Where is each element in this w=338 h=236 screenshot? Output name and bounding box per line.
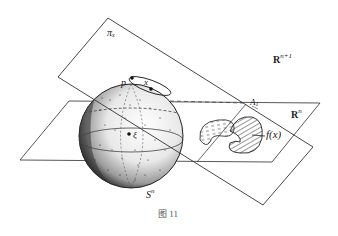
label-r-n: Rn bbox=[291, 110, 302, 120]
label-rn1-sup: n+1 bbox=[280, 52, 292, 60]
label-xi: ξ bbox=[133, 131, 137, 140]
label-x: x bbox=[144, 78, 148, 87]
label-p: p bbox=[121, 78, 126, 88]
label-rn-sup: n bbox=[298, 107, 302, 115]
label-sn: Sn bbox=[146, 190, 155, 200]
figure-caption: 图 11 bbox=[158, 210, 178, 219]
point-x bbox=[149, 87, 153, 91]
label-a-sub: 1 bbox=[256, 101, 259, 107]
label-s-sup: n bbox=[151, 187, 155, 195]
label-pi-x: πx bbox=[107, 28, 115, 38]
point-p bbox=[130, 76, 134, 80]
point-xi bbox=[127, 132, 131, 136]
label-pi-sub: x bbox=[112, 32, 115, 38]
label-r-n-plus-1: Rn+1 bbox=[273, 55, 292, 65]
region-dashed-blob bbox=[200, 120, 234, 145]
sphere-sn bbox=[79, 73, 183, 188]
diagram-canvas bbox=[0, 0, 338, 236]
label-fx: f(x) bbox=[266, 129, 281, 140]
region-fx-blob bbox=[229, 117, 262, 153]
label-a1: A1 bbox=[250, 98, 259, 107]
